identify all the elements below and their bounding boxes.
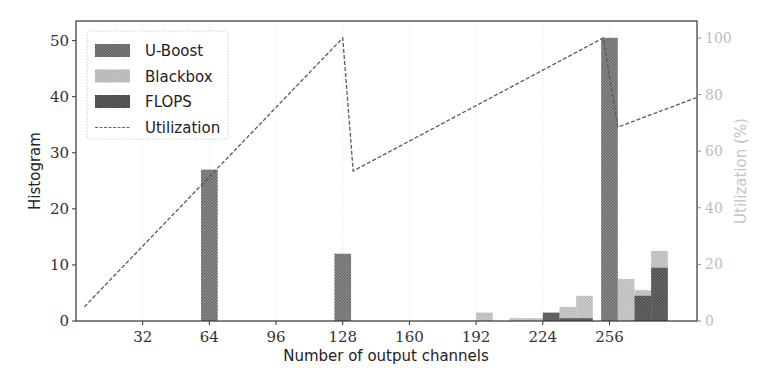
x-tick-label: 256 <box>595 328 624 346</box>
bar-u-boost <box>334 254 351 321</box>
y2-tick-label: 40 <box>705 200 723 216</box>
bar-blackbox <box>476 313 493 321</box>
y-tick-label: 20 <box>50 200 69 218</box>
y-axis-ticks: 01020304050 <box>50 32 76 330</box>
x-tick-label: 128 <box>328 328 357 346</box>
bar-flops <box>634 296 651 321</box>
y2-tick-label: 100 <box>705 30 732 46</box>
x-tick-label: 224 <box>528 328 557 346</box>
legend-label: Blackbox <box>145 68 213 86</box>
legend-label: Utilization <box>145 119 220 137</box>
bar-flops <box>543 313 560 321</box>
y-axis-title: Histogram <box>26 132 44 210</box>
y-tick-label: 50 <box>50 32 69 50</box>
x-tick-label: 32 <box>133 328 152 346</box>
right-y-axis-ticks: 020406080100 <box>697 30 732 329</box>
bar-u-boost <box>201 170 218 321</box>
x-tick-label: 160 <box>395 328 424 346</box>
legend-label: FLOPS <box>145 93 192 111</box>
right-y-axis-title: Utilization (%) <box>732 118 750 224</box>
legend-swatch <box>95 70 130 83</box>
legend-swatch <box>95 44 130 57</box>
x-axis-ticks: 326496128160192224256 <box>133 321 624 346</box>
y2-tick-label: 80 <box>705 87 723 103</box>
y2-tick-label: 20 <box>705 256 723 272</box>
histogram-utilization-chart: 326496128160192224256 01020304050 020406… <box>0 0 784 387</box>
bar-u-boost <box>601 38 618 321</box>
x-tick-label: 96 <box>267 328 286 346</box>
x-tick-label: 192 <box>462 328 491 346</box>
x-axis-title: Number of output channels <box>283 347 489 365</box>
x-tick-label: 64 <box>200 328 219 346</box>
y-tick-label: 40 <box>50 88 69 106</box>
y-tick-label: 10 <box>50 256 69 274</box>
y-tick-label: 30 <box>50 144 69 162</box>
bar-blackbox <box>576 296 593 321</box>
legend-label: U-Boost <box>145 42 203 60</box>
histogram-bars <box>201 38 668 321</box>
y-tick-label: 0 <box>59 312 69 330</box>
bar-blackbox <box>618 279 635 321</box>
y2-tick-label: 60 <box>705 143 723 159</box>
legend: U-BoostBlackboxFLOPSUtilization <box>87 31 228 139</box>
legend-swatch <box>95 95 130 108</box>
bar-flops <box>651 268 668 321</box>
y2-tick-label: 0 <box>705 313 714 329</box>
